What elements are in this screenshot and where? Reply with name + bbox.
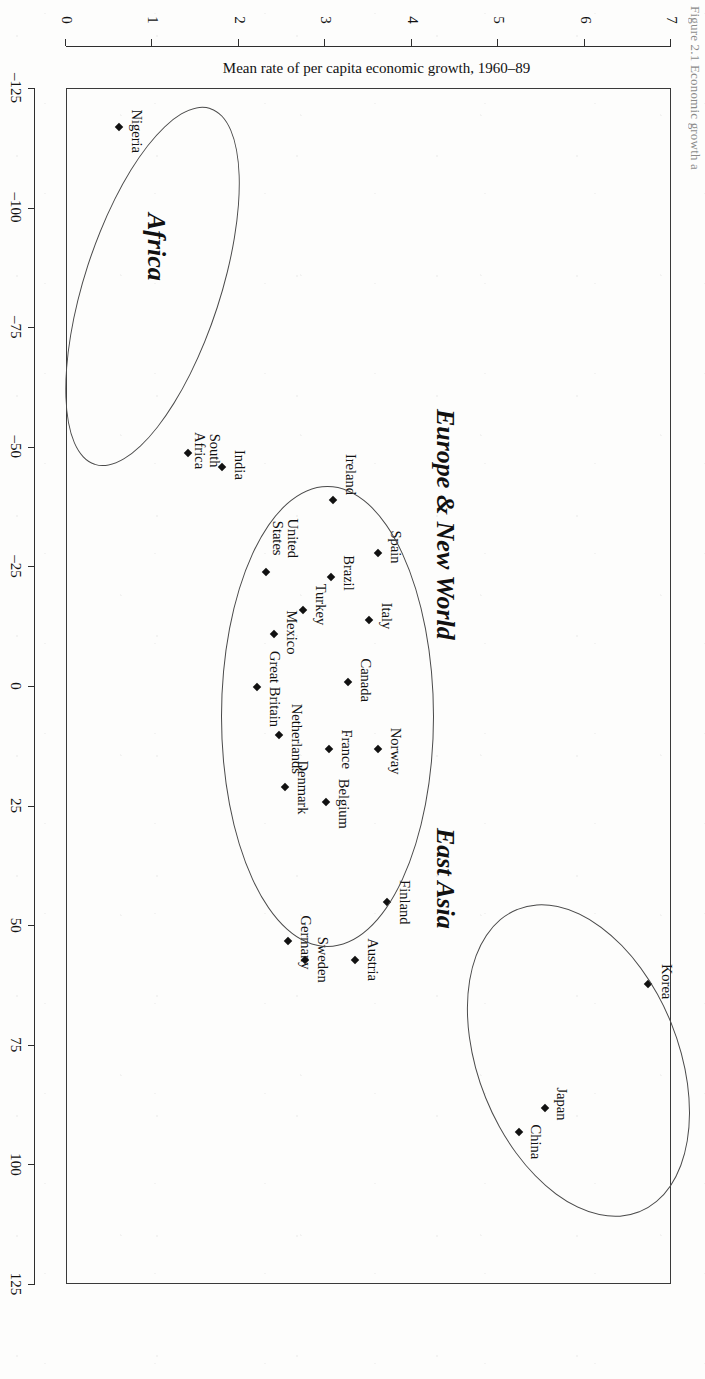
y-tick-label: 5 [490,16,507,24]
x-tick-label: 100 [7,1153,24,1176]
x-tick-label: –75 [7,316,24,339]
y-tick-label: 4 [403,16,420,24]
x-tick-label: 0 [7,682,24,690]
y-tick [324,39,325,46]
x-tick-label: –100 [7,193,24,223]
x-tick [28,208,35,209]
y-tick-label: 1 [144,16,161,24]
x-tick [28,447,35,448]
x-tick-label: –125 [7,73,24,103]
y-axis-label: Mean rate of per capita economic growth,… [77,60,677,77]
scatter-figure: Figure 2.1 Economic growth a KoreaJapanC… [0,0,705,1379]
x-tick [28,1284,35,1285]
x-tick [28,327,35,328]
x-tick-label: 50 [7,918,24,933]
y-tick [497,39,498,46]
figure-caption: Figure 2.1 Economic growth a [687,6,703,170]
x-tick-label: –25 [7,555,24,578]
x-tick [28,1045,35,1046]
cluster-ellipse-europe---new-world [221,486,434,947]
cluster-label: Europe & New World [430,409,460,640]
data-point-south-africa [183,448,191,456]
x-tick-label: 125 [7,1273,24,1296]
y-tick-label: 0 [58,16,75,24]
x-tick [28,925,35,926]
x-tick [28,566,35,567]
x-tick [28,88,35,89]
x-tick-label: 75 [7,1037,24,1052]
y-tick-label: 3 [317,16,334,24]
x-tick [28,686,35,687]
data-point-label: Korea [660,964,675,999]
data-point-label: Nigeria [129,110,144,153]
x-tick-label: –50 [7,436,24,459]
y-tick-label: 6 [576,16,593,24]
data-point-germany [284,936,292,944]
y-tick [151,39,152,46]
rotated-figure-wrapper: Figure 2.1 Economic growth a KoreaJapanC… [0,0,705,1379]
y-tick [411,39,412,46]
figure-page: Figure 2.1 Economic growth a KoreaJapanC… [0,0,705,1379]
data-point-label: Austria [365,938,380,981]
cluster-ellipse-africa [29,87,275,486]
y-tick-label: 7 [663,16,680,24]
y-tick-label: 2 [230,16,247,24]
y-axis-line [66,46,671,47]
y-tick [238,39,239,46]
cluster-label: Africa [141,213,171,281]
cluster-ellipse-east-asia [424,872,705,1251]
x-tick [28,806,35,807]
data-point-nigeria [114,123,122,131]
x-tick-label: 25 [7,798,24,813]
y-tick [584,39,585,46]
x-tick [28,1164,35,1165]
y-tick [65,39,66,46]
cluster-label: East Asia [430,828,460,929]
data-point-label: South Africa [192,432,222,469]
y-tick [670,39,671,46]
data-point-austria [350,955,358,963]
plot-area: KoreaJapanChinaSpainIrelandItalyBrazilNo… [66,88,671,1284]
data-point-label: India [233,450,248,480]
